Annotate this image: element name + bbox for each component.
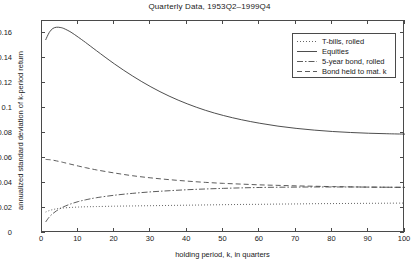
legend-label: Bond held to mat. k — [322, 67, 387, 76]
x-axis-tick-label: 10 — [73, 234, 81, 243]
x-axis-tick-label: 20 — [109, 234, 117, 243]
y-axis-tick-label: 0.16 — [0, 28, 12, 37]
x-axis-tick-label: 50 — [218, 234, 226, 243]
legend-item: Bond held to mat. k — [296, 66, 395, 76]
legend-item: 5-year bond, rolled — [296, 56, 395, 66]
x-axis-tick-label: 40 — [182, 234, 190, 243]
x-axis-tick — [258, 228, 259, 232]
legend-line-swatch — [296, 37, 318, 46]
x-axis-tick — [186, 20, 187, 24]
x-axis-tick-label: 80 — [327, 234, 335, 243]
y-axis-tick-label: 0.1 — [2, 103, 12, 112]
y-axis-tick — [41, 207, 45, 208]
legend-item: T-bills, rolled — [296, 36, 395, 46]
series-line — [46, 159, 405, 187]
x-axis-tick — [186, 228, 187, 232]
y-axis-tick-label: 0.02 — [0, 203, 12, 212]
x-axis-tick — [404, 228, 405, 232]
legend-line-swatch — [296, 67, 318, 76]
x-axis-tick — [222, 20, 223, 24]
y-axis-tick — [400, 132, 404, 133]
x-axis-tick-label: 0 — [39, 234, 43, 243]
chart-title: Quarterly Data, 1953Q2–1999Q4 — [0, 2, 419, 11]
x-axis-label: holding period, k, in quarters — [41, 250, 404, 259]
y-axis-tick-label: 0.14 — [0, 53, 12, 62]
x-axis-tick — [367, 228, 368, 232]
y-axis-tick — [400, 207, 404, 208]
x-axis-tick-label: 90 — [364, 234, 372, 243]
y-axis-tick — [41, 132, 45, 133]
y-axis-tick — [400, 182, 404, 183]
x-axis-tick — [367, 20, 368, 24]
x-axis-tick — [77, 20, 78, 24]
x-axis-tick — [41, 20, 42, 24]
y-axis-label: annualized standard deviation of k-perio… — [16, 21, 25, 241]
x-axis-tick — [258, 20, 259, 24]
x-axis-tick — [404, 20, 405, 24]
x-axis-tick — [41, 228, 42, 232]
y-axis-tick-label: 0.04 — [0, 178, 12, 187]
x-axis-tick — [77, 228, 78, 232]
x-axis-tick — [295, 228, 296, 232]
legend-label: 5-year bond, rolled — [322, 57, 385, 66]
y-axis-tick — [400, 82, 404, 83]
legend: T-bills, rolledEquities5-year bond, roll… — [292, 33, 396, 78]
y-axis-tick — [400, 107, 404, 108]
legend-line-swatch — [296, 57, 318, 66]
y-axis-tick — [41, 107, 45, 108]
y-axis-tick-label: 0.12 — [0, 78, 12, 87]
x-axis-tick — [331, 228, 332, 232]
y-axis-tick — [41, 182, 45, 183]
x-axis-tick-label: 70 — [291, 234, 299, 243]
x-axis-tick-label: 30 — [146, 234, 154, 243]
legend-line-swatch — [296, 47, 318, 56]
legend-label: Equities — [322, 47, 349, 56]
x-axis-tick — [149, 228, 150, 232]
series-line — [46, 203, 405, 212]
y-axis-tick-label: 0.06 — [0, 153, 12, 162]
y-axis-tick — [41, 157, 45, 158]
y-axis-tick — [41, 57, 45, 58]
x-axis-tick — [295, 20, 296, 24]
y-axis-tick — [400, 157, 404, 158]
x-axis-tick — [149, 20, 150, 24]
legend-label: T-bills, rolled — [322, 37, 364, 46]
x-axis-tick — [113, 20, 114, 24]
figure: Quarterly Data, 1953Q2–1999Q4 annualized… — [0, 0, 419, 270]
y-axis-tick — [41, 32, 45, 33]
x-axis-tick — [222, 228, 223, 232]
y-axis-tick-label: 0 — [8, 228, 12, 237]
y-axis-tick-label: 0.08 — [0, 128, 12, 137]
legend-item: Equities — [296, 46, 395, 56]
x-axis-tick — [113, 228, 114, 232]
x-axis-tick-label: 100 — [398, 234, 411, 243]
y-axis-tick — [400, 57, 404, 58]
y-axis-tick — [41, 82, 45, 83]
x-axis-tick-label: 60 — [255, 234, 263, 243]
y-axis-tick — [400, 32, 404, 33]
x-axis-tick — [331, 20, 332, 24]
y-axis-tick — [41, 232, 45, 233]
